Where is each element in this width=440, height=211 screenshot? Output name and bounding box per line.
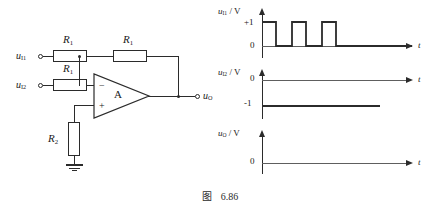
input-1-label: uI1 (16, 51, 26, 62)
resistor-r2-label: R2 (48, 133, 58, 145)
summing-node-dot (78, 55, 81, 58)
resistor-r2 (68, 122, 80, 156)
plot-ui2-ytick-zero: 0 (250, 74, 255, 83)
opamp-symbol: − + A (92, 72, 152, 120)
output-label: uO (203, 91, 212, 102)
circuit-diagram: uI1 R1 uI2 R1 R1 − (0, 0, 215, 211)
output-node-dot (177, 95, 180, 98)
ground-symbol (66, 164, 83, 173)
plot-ui1-waveform (262, 14, 412, 50)
wire-noninverting-to-r2 (74, 105, 75, 122)
output-terminal (195, 94, 200, 99)
plot-uo-xaxis-arrow (406, 160, 413, 166)
plot-ui2-xaxis-arrow (406, 77, 413, 83)
resistor-r1-input2 (53, 79, 87, 91)
wire-opamp-output (148, 96, 195, 97)
opamp-noninverting-sign: + (99, 101, 105, 111)
plot-ui1-xlabel: t (418, 41, 421, 50)
plot-ui2: uI2 / V t 0 -1 (215, 63, 440, 125)
wire-noninverting-input (74, 105, 94, 106)
wire-input2-to-r1 (43, 85, 53, 86)
figure-caption: 图6.86 (0, 188, 440, 203)
waveform-plots: uI1 / V t +1 0 uI2 / V (215, 0, 440, 185)
plot-ui1-ytick-zero: 0 (250, 41, 255, 50)
wire-input1-to-r1 (43, 56, 53, 57)
plot-uo-yaxis (262, 136, 263, 174)
plot-ui2-yaxis (262, 75, 263, 119)
resistor-r1-input1-label: R1 (63, 34, 73, 46)
plot-ui2-waveform (262, 105, 380, 107)
plot-uo-xaxis (262, 163, 406, 164)
figure-caption-prefix: 图 (202, 191, 212, 202)
plot-ui1-ylabel: uI1 / V (218, 7, 241, 17)
plot-ui2-ylabel: uI2 / V (218, 68, 241, 78)
plot-uo-xlabel: t (418, 158, 421, 167)
plot-ui1-ytick-high: +1 (244, 18, 254, 27)
wire-summing-node (79, 56, 80, 86)
opamp-label: A (114, 89, 122, 100)
figure-root: uI1 R1 uI2 R1 R1 − (0, 0, 440, 211)
plot-ui2-ytick-low: -1 (244, 99, 252, 108)
plot-ui2-xlabel: t (418, 75, 421, 84)
input-2-label: uI2 (16, 80, 26, 91)
resistor-r1-feedback-label: R1 (123, 34, 133, 46)
plot-uo-ylabel: uO / V (218, 129, 240, 139)
plot-ui2-xaxis (262, 80, 406, 81)
wire-r2-to-ground (74, 156, 75, 164)
plot-uo-ytick-zero: 0 (250, 157, 255, 166)
plot-uo: uO / V t 0 (215, 126, 440, 188)
plot-ui1: uI1 / V t +1 0 (215, 2, 440, 64)
wire-feedback-down-to-output (178, 56, 179, 96)
resistor-r1-input1 (53, 50, 87, 62)
figure-caption-number: 6.86 (221, 191, 239, 202)
opamp-inverting-sign: − (99, 81, 105, 91)
resistor-r1-feedback (113, 50, 147, 62)
resistor-r1-input2-label: R1 (63, 63, 73, 75)
